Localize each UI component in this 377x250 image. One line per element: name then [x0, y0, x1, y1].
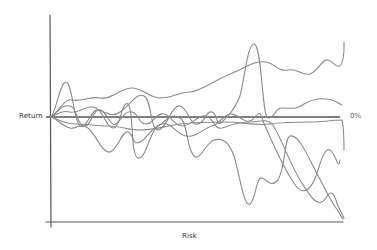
series-line-3	[51, 104, 343, 219]
y-axis-label: Return	[19, 112, 43, 120]
series-line-1	[51, 42, 344, 117]
risk-return-chart	[0, 0, 377, 250]
zero-line-label: 0%	[350, 112, 361, 120]
x-axis-label: Risk	[182, 232, 197, 240]
y-axis	[50, 15, 51, 227]
